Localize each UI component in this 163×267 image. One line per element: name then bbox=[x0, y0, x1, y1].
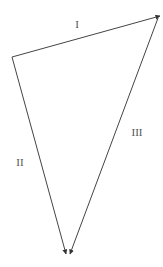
vector-ii-label: II bbox=[16, 157, 23, 168]
vector-i-arrow bbox=[12, 16, 160, 57]
vector-iii-label: III bbox=[132, 127, 143, 138]
vector-i-label: I bbox=[75, 19, 79, 30]
vector-iii-arrow bbox=[70, 18, 158, 254]
